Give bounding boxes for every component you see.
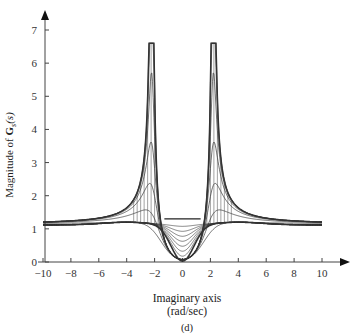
x-axis-title: Imaginary axis [0,292,354,304]
y-tick-label: 3 [32,157,38,169]
x-axis-arrow-icon [340,258,350,266]
x-tick-label: −2 [149,267,161,279]
y-tick-label: 7 [32,24,38,36]
mesh-curve [43,43,322,259]
y-tick-label: 6 [32,57,38,69]
y-tick-label: 5 [32,90,38,102]
y-tick-label: 0 [32,256,38,268]
y-tick-label: 2 [32,190,38,202]
surface-mesh [43,43,322,261]
x-tick-label: 6 [263,267,269,279]
x-tick-label: 8 [291,267,297,279]
mesh-curve [43,210,322,260]
x-tick-label: −6 [93,267,105,279]
y-tick-label: 1 [32,223,38,235]
y-axis-title: Magnitude of Gs(s) [3,112,18,198]
mesh-curve [43,222,322,246]
axes [38,10,350,266]
mesh-curve [43,43,322,259]
x-tick-label: −4 [121,267,133,279]
mesh-curve [43,73,322,260]
x-tick-label: −10 [34,267,52,279]
mesh-curve [43,142,322,260]
chart-plot: −10−8−6−4−20246810 01234567 Magnitude of… [0,0,354,335]
x-axis-units: (rad/sec) [0,305,354,317]
x-tick-label: 2 [208,267,214,279]
y-axis-arrow-icon [41,10,49,20]
x-tick-label: 10 [317,267,329,279]
x-tick-label: −8 [65,267,77,279]
mesh-curve [43,43,322,259]
y-ticks: 01234567 [32,24,50,268]
x-tick-label: 0 [180,267,186,279]
x-tick-label: 4 [236,267,242,279]
panel-label: (d) [0,322,354,333]
mesh-curve [43,222,322,261]
y-tick-label: 4 [32,123,38,135]
